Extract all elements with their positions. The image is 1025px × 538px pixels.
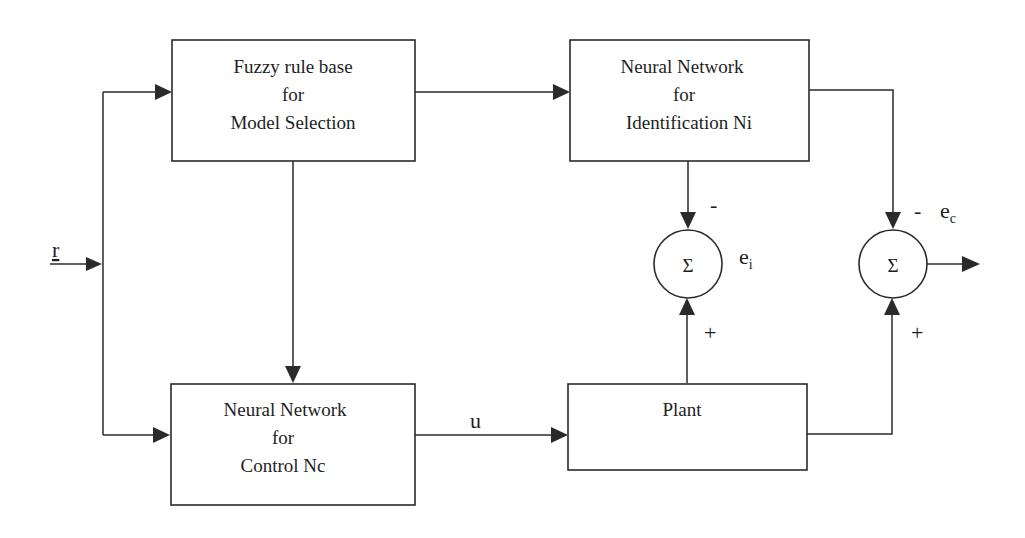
arrow-head-icon: [86, 257, 102, 271]
sigma-icon: Σ: [887, 255, 898, 276]
arrow-head-icon: [155, 84, 172, 100]
fuzzy-rule-base-block[interactable]: Fuzzy rule base for Model Selection: [172, 40, 415, 161]
block-label: Model Selection: [230, 112, 356, 133]
identification-error-label: ei: [739, 244, 753, 272]
minus-sign-label: -: [914, 198, 921, 223]
arrow-head-icon: [680, 212, 696, 229]
block-label: Identification Ni: [626, 112, 752, 133]
block-label: for: [272, 427, 295, 448]
summing-junction-c[interactable]: Σ: [859, 230, 927, 298]
arrow-head-icon: [962, 256, 980, 272]
block-label: Plant: [662, 399, 702, 420]
sigma-icon: Σ: [682, 255, 693, 276]
arrow-head-icon: [153, 427, 170, 443]
block-label: for: [282, 84, 305, 105]
plus-sign-label: +: [911, 320, 923, 345]
block-label: Neural Network: [621, 56, 744, 77]
identification-nn-block[interactable]: Neural Network for Identification Ni: [570, 40, 809, 161]
minus-sign-label: -: [710, 192, 717, 217]
arrow-head-icon: [285, 366, 301, 383]
block-label: for: [673, 84, 696, 105]
control-nn-block[interactable]: Neural Network for Control Nc: [171, 384, 415, 505]
control-signal-label: u: [470, 408, 481, 433]
arrow-head-icon: [553, 84, 570, 100]
block-label: Neural Network: [224, 399, 347, 420]
plus-sign-label: +: [704, 320, 716, 345]
plant-block[interactable]: Plant: [568, 384, 807, 470]
arrow-head-icon: [885, 212, 901, 229]
block-label: Control Nc: [241, 455, 326, 476]
identification-to-sum-c-line: [808, 90, 893, 215]
arrow-head-icon: [679, 298, 695, 315]
reference-signal-label: r: [52, 237, 60, 262]
arrow-head-icon: [884, 298, 900, 315]
control-error-label: ec: [940, 198, 956, 226]
summing-junction-i[interactable]: Σ: [654, 230, 722, 298]
arrow-head-icon: [551, 427, 568, 443]
plant-to-sum-c-line: [806, 313, 892, 434]
block-label: Fuzzy rule base: [233, 56, 352, 77]
control-block-diagram: Fuzzy rule base for Model Selection Neur…: [0, 0, 1025, 538]
